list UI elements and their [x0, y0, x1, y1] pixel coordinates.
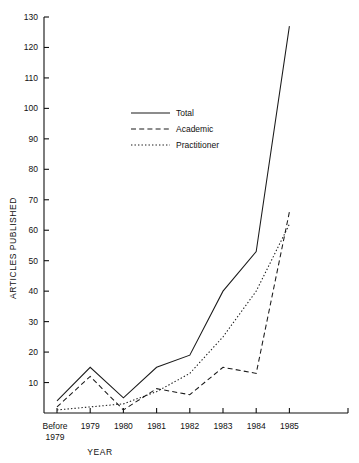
legend-label-practitioner: Practitioner: [176, 140, 219, 150]
x-tick-label: 1980: [114, 421, 133, 431]
y-tick-label: 60: [29, 225, 39, 235]
x-tick-label: 1983: [214, 421, 233, 431]
y-tick-label: 90: [29, 134, 39, 144]
y-tick-label: 110: [24, 73, 38, 83]
y-axis-title: ARTICLES PUBLISHED: [8, 197, 18, 299]
x-axis-tick-labels: Before19791979198019811982198319841985: [42, 421, 299, 442]
x-tick-label: 1985: [280, 421, 299, 431]
x-axis: Before19791979198019811982198319841985 Y…: [42, 408, 348, 457]
series-line-practitioner: [57, 224, 289, 410]
legend-label-academic: Academic: [176, 124, 214, 134]
legend-label-total: Total: [176, 108, 194, 118]
x-axis-title: YEAR: [87, 447, 112, 457]
chart-legend: TotalAcademicPractitioner: [131, 108, 219, 150]
x-tick-label: Before1979: [42, 421, 67, 442]
y-tick-label: 120: [24, 42, 38, 52]
x-tick-label: 1984: [247, 421, 266, 431]
y-tick-label: 10: [29, 378, 39, 388]
data-series-group: [57, 26, 289, 410]
y-tick-label: 40: [29, 286, 39, 296]
x-axis-ticks: [57, 408, 348, 413]
y-tick-label: 70: [29, 195, 39, 205]
x-tick-label: 1982: [180, 421, 199, 431]
y-axis-ticks: [44, 17, 49, 383]
y-tick-label: 130: [24, 12, 38, 22]
articles-published-line-chart: 102030405060708090100110120130 ARTICLES …: [0, 0, 359, 463]
y-tick-label: 50: [29, 256, 39, 266]
series-line-total: [57, 26, 289, 401]
y-tick-label: 30: [29, 317, 39, 327]
x-tick-label: 1981: [147, 421, 166, 431]
y-tick-label: 80: [29, 164, 39, 174]
x-tick-label: 1979: [81, 421, 100, 431]
series-line-academic: [57, 212, 289, 410]
y-axis-tick-labels: 102030405060708090100110120130: [24, 12, 38, 388]
y-tick-label: 100: [24, 103, 38, 113]
y-axis: 102030405060708090100110120130 ARTICLES …: [8, 12, 49, 413]
y-tick-label: 20: [29, 347, 39, 357]
